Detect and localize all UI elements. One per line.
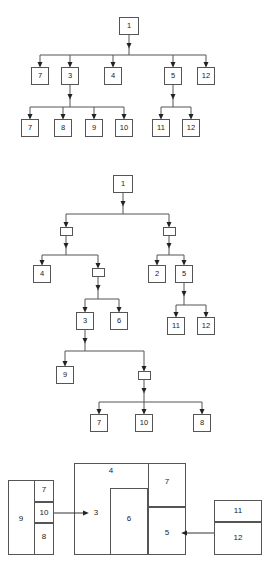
figure-canvas: 1 7 3 4 5 12 7 8 9 10 11 12 (0, 0, 272, 587)
bottom-diagram-arrows (0, 0, 272, 587)
